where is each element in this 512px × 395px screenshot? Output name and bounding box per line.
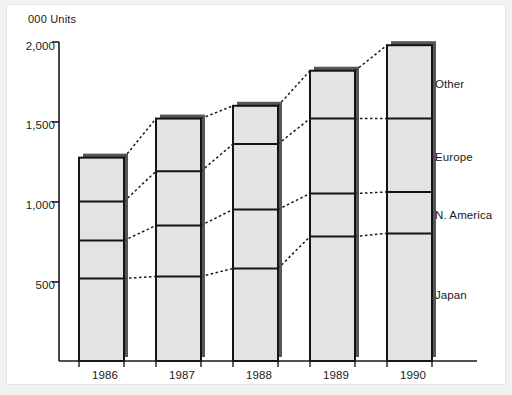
connector-line xyxy=(278,119,310,145)
chart-frame: 000 Units 2,000 1,500 1,000 500 1986 198… xyxy=(7,5,505,384)
connector-line xyxy=(278,194,310,210)
bar-body xyxy=(387,45,432,361)
bar-1986 xyxy=(79,154,128,361)
plot-area: 000 Units 2,000 1,500 1,000 500 1986 198… xyxy=(7,5,505,384)
bar-body xyxy=(79,158,124,361)
connector-line xyxy=(201,268,233,276)
chart-screenshot: 000 Units 2,000 1,500 1,000 500 1986 198… xyxy=(0,0,512,395)
bar-body xyxy=(310,71,355,361)
connector-line xyxy=(201,106,233,119)
bars-group xyxy=(79,41,436,361)
connector-line xyxy=(355,233,387,236)
connector-line xyxy=(355,192,387,194)
bar-1989 xyxy=(310,67,359,361)
bar-body xyxy=(156,119,201,361)
connector-line xyxy=(201,144,233,171)
connector-line xyxy=(124,276,156,278)
connector-line xyxy=(278,237,310,269)
bar-1988 xyxy=(233,102,282,361)
connector-line xyxy=(355,45,387,71)
connector-line xyxy=(124,171,156,201)
connector-line xyxy=(201,209,233,225)
bar-1990 xyxy=(387,41,436,361)
chart-canvas xyxy=(7,5,505,384)
connector-line xyxy=(124,225,156,240)
connector-line xyxy=(124,119,156,158)
bar-1987 xyxy=(156,115,205,361)
connector-line xyxy=(278,71,310,106)
